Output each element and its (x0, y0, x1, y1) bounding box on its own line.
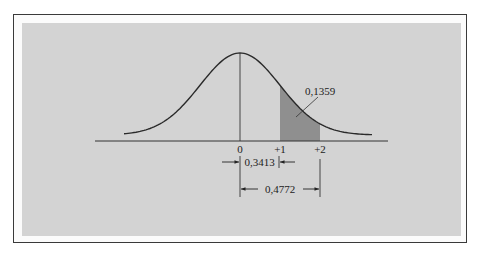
tick-label-0: 0 (237, 143, 243, 155)
dimension-label-0-2: 0,4772 (265, 183, 295, 195)
tick-label-plus1: +1 (274, 143, 286, 155)
dimension-label-0-1: 0,3413 (244, 156, 275, 168)
tick-label-plus2: +2 (314, 143, 326, 155)
normal-curve-diagram: 0 +1 +2 0,1359 0,3413 0,4772 (0, 0, 482, 257)
shaded-area-label: 0,1359 (305, 85, 336, 97)
